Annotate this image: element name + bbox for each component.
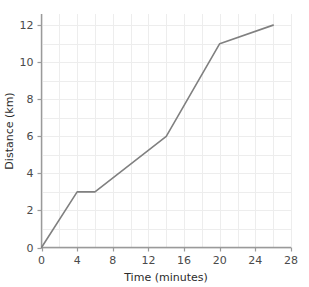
y-axis-tick-label: 12	[20, 19, 34, 32]
x-axis-tick-label: 12	[141, 254, 155, 267]
x-axis-tick-label: 28	[284, 254, 298, 267]
y-axis-tick-label: 0	[27, 242, 34, 255]
x-axis-tick-label: 24	[248, 254, 262, 267]
y-axis-tick-label: 4	[27, 167, 34, 180]
y-axis-title: Distance (km)	[3, 92, 16, 169]
x-axis-tick-label: 20	[213, 254, 227, 267]
x-axis-tick-label: 8	[109, 254, 116, 267]
y-axis-tick-label: 2	[27, 204, 34, 217]
x-axis-tick-label: 16	[177, 254, 191, 267]
x-axis-title: Time (minutes)	[123, 271, 208, 284]
y-axis-tick-label: 6	[27, 130, 34, 143]
x-axis-tick-label: 0	[38, 254, 45, 267]
distance-time-line-chart: 0481216202428 024681012 Time (minutes) D…	[0, 0, 309, 287]
chart-canvas: 0481216202428 024681012 Time (minutes) D…	[0, 0, 309, 287]
y-axis-tick-label: 8	[27, 93, 34, 106]
chart-background	[0, 0, 309, 287]
x-axis-tick-label: 4	[74, 254, 81, 267]
y-axis-tick-label: 10	[20, 56, 34, 69]
